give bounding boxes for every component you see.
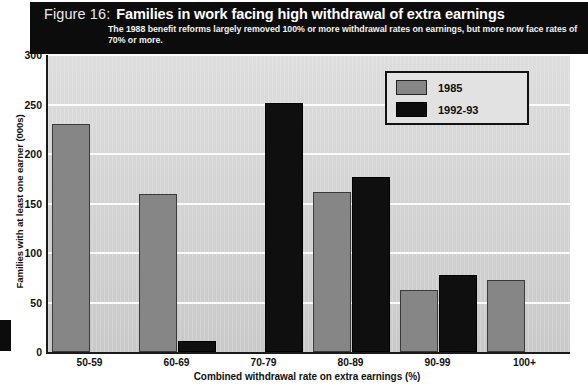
legend-item-1985: 1985 xyxy=(396,80,462,95)
x-axis-title: Combined withdrawal rate on extra earnin… xyxy=(46,371,568,382)
figure-root: Figure 16: Families in work facing high … xyxy=(0,0,588,385)
figure-subtitle: The 1988 benefit reforms largely removed… xyxy=(108,24,578,47)
page-title: Families in work facing high withdrawal … xyxy=(116,6,504,22)
bar-100+-1985 xyxy=(487,280,525,352)
legend-swatch-icon xyxy=(396,80,427,95)
x-axis-tick-label: 70-79 xyxy=(220,357,307,368)
legend-swatch-icon xyxy=(396,102,427,117)
y-axis-tick-label: 300 xyxy=(2,49,42,61)
bar-50-59-1985 xyxy=(52,124,90,352)
figure-title-line: Figure 16: Families in work facing high … xyxy=(44,6,584,22)
legend-label: 1985 xyxy=(438,82,462,94)
bar-90-99-1985 xyxy=(400,290,438,352)
bar-90-99-1992-93 xyxy=(439,275,477,352)
y-axis-title: Families with at least one earner (000s) xyxy=(14,97,25,307)
legend-item-1992-93: 1992-93 xyxy=(396,102,478,117)
x-axis-tick-label: 90-99 xyxy=(394,357,481,368)
x-axis-tick-label: 80-89 xyxy=(307,357,394,368)
figure-header-banner: Figure 16: Families in work facing high … xyxy=(30,2,588,54)
chart-legend: 19851992-93 xyxy=(385,71,529,125)
x-axis-tick-label: 100+ xyxy=(481,357,568,368)
bar-80-89-1992-93 xyxy=(352,177,390,352)
legend-label: 1992-93 xyxy=(438,104,478,116)
bar-80-89-1985 xyxy=(313,192,351,352)
bar-70-79-1992-93 xyxy=(265,103,303,352)
figure-number: Figure 16: xyxy=(44,6,110,22)
x-axis-tick-label: 60-69 xyxy=(133,357,220,368)
y-axis-tick-label: 0 xyxy=(2,346,42,358)
x-axis-tick-label: 50-59 xyxy=(46,357,133,368)
bar-60-69-1985 xyxy=(139,194,177,352)
bar-60-69-1992-93 xyxy=(178,341,216,352)
header-text-block: Figure 16: Families in work facing high … xyxy=(44,6,584,47)
